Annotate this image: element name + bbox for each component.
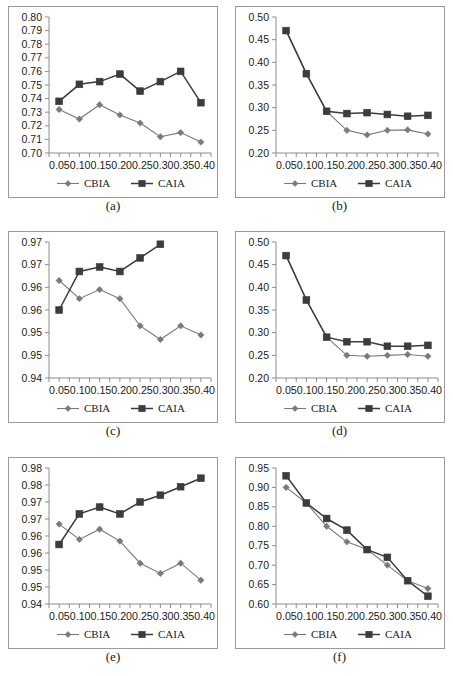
chart-panel-e: 0.980.980.970.970.960.960.950.950.940.05…: [8, 457, 218, 649]
data-point-square: [424, 112, 431, 119]
y-tick-label: 0.95: [22, 326, 43, 338]
data-point-diamond: [96, 526, 102, 532]
plot-area-a: 0.800.790.780.770.760.750.740.730.720.71…: [9, 7, 219, 199]
y-tick-label: 0.75: [22, 79, 43, 91]
data-point-square: [197, 475, 204, 482]
chart-panel-f: 0.950.900.850.800.750.700.650.600.050.10…: [235, 457, 445, 649]
x-tick-labels: 0.050.100.150.200.250.300.350.40: [276, 159, 442, 171]
data-point-diamond: [424, 353, 430, 359]
data-point-diamond: [198, 139, 204, 145]
x-tick-labels: 0.050.100.150.200.250.300.350.40: [276, 610, 442, 622]
legend-marker-diamond: [292, 632, 298, 638]
series-line-cbia: [59, 281, 201, 340]
series-line-caia: [59, 244, 160, 310]
y-tick-label: 0.97: [22, 236, 43, 248]
y-tick-label: 0.95: [248, 462, 269, 474]
series-line-cbia: [59, 524, 201, 580]
panel-cell-b: 0.500.450.400.350.300.250.200.050.100.15…: [226, 0, 453, 225]
panel-caption-c: (c): [106, 424, 120, 438]
data-point-square: [282, 252, 289, 259]
y-tick-label: 0.70: [248, 559, 269, 571]
data-point-square: [424, 593, 431, 600]
y-tick-label: 0.94: [22, 372, 43, 384]
data-point-square: [56, 307, 63, 314]
y-tick-label: 0.78: [22, 38, 43, 50]
legend-marker-diamond: [65, 406, 71, 412]
legend-label: CBIA: [311, 177, 337, 189]
y-tick-label: 0.71: [22, 133, 43, 145]
y-tick-label: 0.90: [248, 481, 269, 493]
legend-label: CAIA: [385, 402, 412, 414]
y-tick-label: 0.77: [22, 51, 43, 63]
legend-marker-diamond: [292, 181, 298, 187]
panel-cell-c: 0.970.970.960.960.950.950.940.050.100.15…: [0, 225, 226, 451]
legend-label: CBIA: [311, 628, 337, 640]
data-point-square: [137, 88, 144, 95]
legend-marker-diamond: [292, 406, 298, 412]
chart-panel-a: 0.800.790.780.770.760.750.740.730.720.71…: [8, 6, 218, 198]
y-tick-label: 0.73: [22, 106, 43, 118]
y-tick-label: 0.97: [22, 496, 43, 508]
y-tick-label: 0.96: [22, 281, 43, 293]
data-point-square: [177, 68, 184, 75]
data-point-diamond: [157, 570, 163, 576]
y-tick-label: 0.85: [248, 500, 269, 512]
y-tick-label: 0.20: [248, 372, 269, 384]
data-point-diamond: [157, 133, 163, 139]
panel-cell-d: 0.500.450.400.350.300.250.200.050.100.15…: [226, 225, 453, 451]
data-point-square: [323, 515, 330, 522]
y-tick-label: 0.95: [22, 349, 43, 361]
legend-item-caia: CAIA: [131, 402, 185, 414]
data-point-square: [302, 500, 309, 507]
y-tick-label: 0.25: [248, 124, 269, 136]
plot-area-d: 0.500.450.400.350.300.250.200.050.100.15…: [236, 232, 446, 424]
y-tick-label: 0.98: [22, 462, 43, 474]
y-tick-label: 0.65: [248, 578, 269, 590]
legend-marker-square: [365, 631, 371, 637]
legend-marker-square: [365, 405, 371, 411]
data-point-square: [116, 268, 123, 275]
data-point-square: [157, 241, 164, 248]
y-tick-label: 0.76: [22, 65, 43, 77]
legend-marker-square: [365, 180, 371, 186]
y-tick-label: 0.35: [248, 79, 269, 91]
data-point-square: [76, 268, 83, 275]
data-point-square: [343, 338, 350, 345]
legend-marker-square: [139, 405, 145, 411]
data-point-square: [96, 78, 103, 85]
legend-label: CAIA: [158, 402, 185, 414]
y-tick-label: 0.50: [248, 11, 269, 23]
legend-marker-diamond: [65, 632, 71, 638]
data-point-diamond: [177, 323, 183, 329]
x-tick-labels: 0.050.100.150.200.250.300.350.40: [276, 384, 442, 396]
y-tick-label: 0.95: [22, 564, 43, 576]
legend-label: CBIA: [84, 177, 110, 189]
y-tick-label: 0.25: [248, 349, 269, 361]
chart-panel-c: 0.970.970.960.960.950.950.940.050.100.15…: [8, 231, 218, 423]
plot-area-e: 0.980.980.970.970.960.960.950.950.940.05…: [9, 458, 219, 650]
data-point-square: [116, 511, 123, 518]
plot-area-f: 0.950.900.850.800.750.700.650.600.050.10…: [236, 458, 446, 650]
data-point-square: [363, 546, 370, 553]
legend-item-cbia: CBIA: [284, 628, 337, 640]
data-point-square: [363, 109, 370, 116]
data-point-diamond: [404, 351, 410, 357]
y-tick-label: 0.60: [248, 598, 269, 610]
data-point-square: [282, 27, 289, 34]
y-tick-label: 0.80: [248, 520, 269, 532]
panel-caption-a: (a): [106, 199, 120, 213]
data-point-diamond: [384, 352, 390, 358]
y-tick-label: 0.70: [22, 147, 43, 159]
data-point-square: [323, 334, 330, 341]
panel-cell-a: 0.800.790.780.770.760.750.740.730.720.71…: [0, 0, 226, 225]
y-tick-label: 0.35: [248, 304, 269, 316]
data-point-diamond: [363, 132, 369, 138]
panel-caption-f: (f): [333, 650, 346, 664]
legend-label: CBIA: [84, 628, 110, 640]
y-tick-label: 0.96: [22, 547, 43, 559]
data-point-square: [116, 71, 123, 78]
data-point-diamond: [424, 131, 430, 137]
plot-area-c: 0.970.970.960.960.950.950.940.050.100.15…: [9, 232, 219, 424]
y-tick-label: 0.72: [22, 119, 43, 131]
data-point-diamond: [363, 353, 369, 359]
